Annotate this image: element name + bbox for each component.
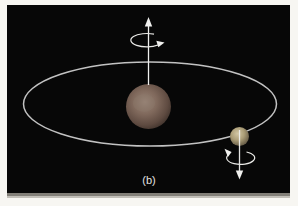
diagram-panel: (b) <box>7 5 290 193</box>
orbit-diagram: (b) <box>7 5 290 193</box>
photo-bottom-edge-highlight <box>7 196 290 198</box>
figure-photo: (b) <box>0 0 298 206</box>
figure-caption: (b) <box>142 174 155 186</box>
planet-surface-mottling <box>133 94 155 112</box>
